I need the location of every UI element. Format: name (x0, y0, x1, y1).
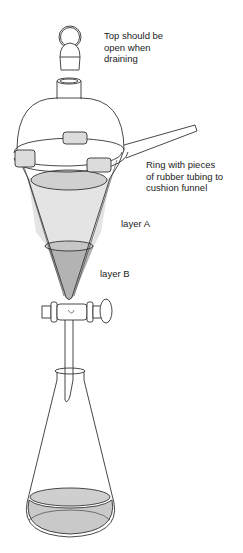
stopper (59, 26, 81, 70)
layer-b-liquid (47, 246, 94, 300)
funnel-stem (65, 320, 73, 402)
layer-a-label: layer A (121, 218, 150, 230)
funnel-neck (57, 78, 81, 99)
layer-b-label: layer B (100, 268, 130, 280)
stopcock (42, 299, 112, 323)
ring-tubing-note: Ring with pieces of rubber tubing to cus… (146, 159, 223, 194)
top-open-note: Top should be open when draining (104, 30, 163, 65)
